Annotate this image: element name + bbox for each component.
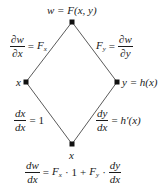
fraction-denominator: dx <box>14 121 26 133</box>
subscript: x <box>59 171 62 179</box>
fraction-numerator: ∂w <box>10 34 25 47</box>
edge-label-right-bottom: dy dx = h′(x) <box>96 108 141 133</box>
equals-sign: = <box>28 41 34 52</box>
term-Fy: Fy <box>96 40 106 53</box>
fraction-numerator: dx <box>14 108 26 121</box>
fraction-numerator: dy <box>96 108 108 121</box>
subscript: y <box>96 171 99 179</box>
term-Fx: Fx <box>52 166 62 179</box>
node-label-left: x <box>16 77 21 88</box>
dy-over-dx: dy dx <box>109 160 121 185</box>
term-F: F <box>52 165 59 177</box>
edge-label-top-right: Fy = ∂w ∂y <box>96 34 133 59</box>
node-right <box>115 80 120 85</box>
fraction-numerator: ∂w <box>118 34 133 47</box>
node-bottom <box>70 142 75 147</box>
equals-sign: = <box>109 41 115 52</box>
plus-sign: + <box>80 167 86 178</box>
node-top <box>70 20 75 25</box>
equals-sign: = <box>43 167 49 178</box>
edge-label-top-left: ∂w ∂x = Fx <box>10 34 47 59</box>
node-left <box>24 80 29 85</box>
dot-operator: · <box>65 167 69 178</box>
term-F: F <box>37 39 44 51</box>
fraction-numerator: dw <box>25 160 40 173</box>
value-one: 1 <box>39 115 45 126</box>
dy-over-dx: dy dx <box>96 108 108 133</box>
node-label-top: w = F(x, y) <box>47 5 97 16</box>
fraction-denominator: dx <box>96 121 108 133</box>
tree-edges <box>0 0 161 185</box>
equals-sign: = <box>29 115 35 126</box>
subscript: y <box>103 45 106 53</box>
dw-over-dx: dw dx <box>25 160 40 185</box>
fraction-denominator: dx <box>26 173 38 185</box>
chain-rule-formula: dw dx = Fx · 1 + Fy · dy dx <box>25 160 121 185</box>
node-label-right: y = h(x) <box>122 77 158 88</box>
subscript: x <box>44 45 47 53</box>
dx-over-dx: dx dx <box>14 108 26 133</box>
partial-w-over-partial-y: ∂w ∂y <box>118 34 133 59</box>
dot-operator: · <box>102 167 106 178</box>
fraction-denominator: dx <box>109 173 121 185</box>
term-Fx: Fx <box>37 40 47 53</box>
partial-w-over-partial-x: ∂w ∂x <box>10 34 25 59</box>
term-F: F <box>96 39 103 51</box>
fraction-numerator: dy <box>109 160 121 173</box>
equals-sign: = <box>111 115 117 126</box>
h-prime-of-x: h′(x) <box>121 115 141 126</box>
term-Fy: Fy <box>89 166 99 179</box>
fraction-denominator: ∂x <box>11 47 23 59</box>
fraction-denominator: ∂y <box>119 47 131 59</box>
edge-label-left-bottom: dx dx = 1 <box>14 108 44 133</box>
value-one: 1 <box>72 167 78 178</box>
